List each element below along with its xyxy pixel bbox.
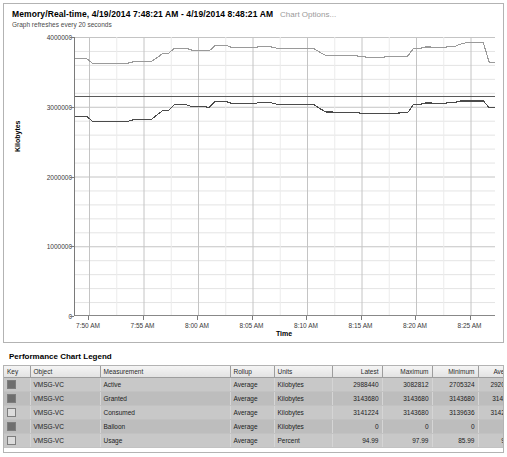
x-tick-mark [88,316,89,320]
column-header-rollup[interactable]: Rollup [230,366,274,378]
x-tick-mark [143,316,144,320]
cell-rollup: Average [230,406,274,420]
y-tick-label: 1000000 [26,246,72,253]
x-tick-label: 7:50 AM [76,322,100,329]
legend-key-cell[interactable] [4,434,30,448]
y-tick-label: 3000000 [26,107,72,114]
cell-latest: 94.99 [332,434,382,448]
table-row[interactable]: VMSG-VCBalloonAverageKilobytes0000 [4,420,504,434]
cell-units: Kilobytes [274,392,332,406]
series-color-swatch-icon [7,408,16,417]
column-header-key[interactable]: Key [4,366,30,378]
legend-table: Key Object Measurement Rollup Units Late… [4,366,504,448]
cell-maximum: 97.99 [382,434,432,448]
cell-rollup: Average [230,378,274,392]
series-color-swatch-icon [7,394,16,403]
chart-title: Memory/Real-time, 4/19/2014 7:48:21 AM -… [12,9,273,19]
cell-units: Kilobytes [274,406,332,420]
cell-object: VMSG-VC [30,434,100,448]
cell-rollup: Average [230,434,274,448]
cell-minimum: 2705324 [432,378,478,392]
series-color-swatch-icon [7,422,16,431]
plot-canvas [74,37,494,316]
cell-minimum: 85.99 [432,434,478,448]
table-row[interactable]: VMSG-VCGrantedAverageKilobytes3143680314… [4,392,504,406]
table-row[interactable]: VMSG-VCActiveAverageKilobytes29884403082… [4,378,504,392]
x-tick-label: 8:10 AM [294,322,318,329]
cell-measurement: Balloon [100,420,230,434]
x-tick-mark [197,316,198,320]
cell-rollup: Average [230,392,274,406]
legend-table-container[interactable]: Key Object Measurement Rollup Units Late… [3,365,504,453]
legend-header-row: Key Object Measurement Rollup Units Late… [4,366,504,378]
x-tick-mark [252,316,253,320]
cell-average: 3142858. [478,406,504,420]
cell-object: VMSG-VC [30,420,100,434]
legend-key-cell[interactable] [4,378,30,392]
cell-latest: 3143680 [332,392,382,406]
cell-minimum: 3143680 [432,392,478,406]
legend-key-cell[interactable] [4,406,30,420]
x-tick-label: 8:15 AM [349,322,373,329]
chart-svg [75,37,495,316]
column-header-units[interactable]: Units [274,366,332,378]
series-line-usage [75,43,495,63]
performance-chart-panel: Memory/Real-time, 4/19/2014 7:48:21 AM -… [0,0,507,457]
y-axis-label: Kilobytes [14,120,21,152]
table-row[interactable]: VMSG-VCUsageAveragePercent94.9997.9985.9… [4,434,504,448]
cell-rollup: Average [230,420,274,434]
x-axis-label: Time [74,330,494,337]
column-header-measurement[interactable]: Measurement [100,366,230,378]
chart-header: Memory/Real-time, 4/19/2014 7:48:21 AM -… [12,9,499,19]
cell-maximum: 3143680 [382,392,432,406]
series-color-swatch-icon [7,380,16,389]
cell-object: VMSG-VC [30,406,100,420]
chart-panel: Memory/Real-time, 4/19/2014 7:48:21 AM -… [3,3,504,343]
series-color-swatch-icon [7,436,16,445]
cell-average: 92.81 [478,434,504,448]
x-tick-label: 8:25 AM [458,322,482,329]
cell-units: Kilobytes [274,420,332,434]
series-line-active [75,101,495,121]
cell-latest: 0 [332,420,382,434]
cell-units: Percent [274,434,332,448]
cell-latest: 3141224 [332,406,382,420]
legend-section-title: Performance Chart Legend [9,352,112,361]
table-row[interactable]: VMSG-VCConsumedAverageKilobytes314122431… [4,406,504,420]
column-header-average[interactable]: Average [478,366,504,378]
cell-maximum: 3143680 [382,406,432,420]
cell-measurement: Active [100,378,230,392]
plot-area: Kilobytes 01000000200000030000004000000 … [12,32,499,337]
x-tick-mark [306,316,307,320]
chart-options-link[interactable]: Chart Options... [280,10,336,19]
cell-measurement: Usage [100,434,230,448]
cell-minimum: 3139636 [432,406,478,420]
cell-maximum: 0 [382,420,432,434]
legend-key-cell[interactable] [4,392,30,406]
x-tick-label: 8:05 AM [240,322,264,329]
cell-average: 3143680 [478,392,504,406]
cell-measurement: Granted [100,392,230,406]
x-tick-label: 7:55 AM [131,322,155,329]
cell-maximum: 3082812 [382,378,432,392]
cell-units: Kilobytes [274,378,332,392]
refresh-note: Graph refreshes every 20 seconds [12,21,112,28]
y-tick-label: 4000000 [26,37,72,44]
y-tick-label: 2000000 [26,177,72,184]
y-tick-mark [70,316,74,317]
x-tick-label: 8:20 AM [403,322,427,329]
cell-minimum: 0 [432,420,478,434]
cell-object: VMSG-VC [30,378,100,392]
cell-average: 0 [478,420,504,434]
x-tick-mark [361,316,362,320]
column-header-maximum[interactable]: Maximum [382,366,432,378]
column-header-minimum[interactable]: Minimum [432,366,478,378]
column-header-object[interactable]: Object [30,366,100,378]
cell-object: VMSG-VC [30,392,100,406]
cell-latest: 2988440 [332,378,382,392]
legend-body: VMSG-VCActiveAverageKilobytes29884403082… [4,378,504,448]
x-tick-label: 8:00 AM [185,322,209,329]
column-header-latest[interactable]: Latest [332,366,382,378]
cell-average: 2920107. [478,378,504,392]
legend-key-cell[interactable] [4,420,30,434]
